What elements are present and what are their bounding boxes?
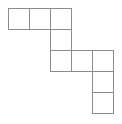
polyomino-cell-r4c4 — [92, 92, 114, 114]
polyomino-cell-r0c2 — [50, 8, 72, 30]
polyomino-cell-r2c3 — [71, 50, 93, 72]
polyomino-cell-r2c2 — [50, 50, 72, 72]
polyomino-figure — [0, 0, 122, 124]
polyomino-cell-r0c0 — [8, 8, 30, 30]
polyomino-cell-r3c4 — [92, 71, 114, 93]
polyomino-cell-r1c2 — [50, 29, 72, 51]
polyomino-cell-layer — [0, 0, 122, 124]
polyomino-cell-r0c1 — [29, 8, 51, 30]
polyomino-cell-r2c4 — [92, 50, 114, 72]
